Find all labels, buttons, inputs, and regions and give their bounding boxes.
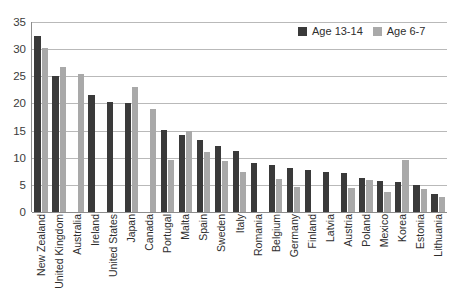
bar	[52, 76, 58, 212]
x-tick-label: Belgium	[270, 214, 281, 252]
y-axis: 05101520253035	[0, 22, 26, 212]
bar	[42, 48, 48, 212]
bar-group	[50, 22, 68, 212]
bar	[161, 130, 167, 212]
x-label-cell: Latvia	[321, 214, 339, 306]
x-tick-label: Finland	[306, 214, 317, 248]
bar	[341, 173, 347, 212]
dark-square-swatch	[298, 27, 307, 36]
y-tick-label-5: 5	[20, 179, 26, 191]
bar	[197, 140, 203, 212]
bar	[413, 185, 419, 212]
bar-group	[231, 22, 249, 212]
bar	[34, 36, 40, 212]
bar	[395, 182, 401, 212]
bar-group	[393, 22, 411, 212]
x-label-cell: Australia	[68, 214, 86, 306]
x-label-cell: Sweden	[212, 214, 230, 306]
x-label-cell: Spain	[194, 214, 212, 306]
light-square-swatch	[373, 27, 382, 36]
bar	[323, 172, 329, 212]
y-tick-label-10: 10	[13, 152, 26, 164]
bar	[294, 187, 300, 213]
bar	[222, 161, 228, 212]
bar-group	[212, 22, 230, 212]
y-tick-label-20: 20	[13, 97, 26, 109]
x-label-cell: Italy	[231, 214, 249, 306]
x-label-cell: Germany	[285, 214, 303, 306]
bar	[359, 178, 365, 212]
x-tick-label: Australia	[72, 214, 83, 255]
bar	[402, 160, 408, 212]
x-label-cell: United States	[104, 214, 122, 306]
legend-label: Age 13-14	[312, 26, 363, 37]
bar-group	[285, 22, 303, 212]
x-tick-label: Romania	[252, 214, 263, 256]
bar	[88, 95, 94, 212]
chart-legend: Age 13-14Age 6-7	[298, 26, 425, 37]
bar	[305, 170, 311, 212]
bar-group	[140, 22, 158, 212]
bar	[348, 188, 354, 212]
x-tick-label: Lithuania	[433, 214, 444, 257]
x-tick-label: Poland	[361, 214, 372, 247]
bar-group	[104, 22, 122, 212]
x-tick-label: Japan	[126, 214, 137, 243]
bar-group	[411, 22, 429, 212]
bar	[107, 102, 113, 212]
x-label-cell: Portugal	[158, 214, 176, 306]
bar	[240, 172, 246, 212]
bar-group	[249, 22, 267, 212]
bar-group	[194, 22, 212, 212]
y-tick-label-30: 30	[13, 43, 26, 55]
y-tick-label-35: 35	[13, 16, 26, 28]
legend-item: Age 13-14	[298, 26, 363, 37]
x-tick-label: Sweden	[216, 214, 227, 252]
bar	[366, 180, 372, 212]
bar-group	[68, 22, 86, 212]
bar-group	[86, 22, 104, 212]
x-tick-label: United Kingdom	[54, 214, 65, 289]
x-tick-label: Latvia	[325, 214, 336, 242]
bar	[168, 160, 174, 212]
bar-group	[357, 22, 375, 212]
x-label-cell: Korea	[393, 214, 411, 306]
x-label-cell: Lithuania	[429, 214, 447, 306]
x-tick-label: Ireland	[90, 214, 101, 246]
x-tick-label: Germany	[288, 214, 299, 257]
x-tick-label: Spain	[198, 214, 209, 241]
x-label-cell: Mexico	[375, 214, 393, 306]
bar-group	[267, 22, 285, 212]
bar-group	[321, 22, 339, 212]
bar-group	[158, 22, 176, 212]
bar-group	[176, 22, 194, 212]
bar	[132, 87, 138, 212]
x-tick-label: Austria	[343, 214, 354, 247]
x-tick-label: Portugal	[162, 214, 173, 253]
x-tick-label: Malta	[180, 214, 191, 240]
bar-group	[32, 22, 50, 212]
bar	[186, 131, 192, 212]
x-label-cell: Ireland	[86, 214, 104, 306]
x-label-cell: United Kingdom	[50, 214, 68, 306]
x-label-cell: Canada	[140, 214, 158, 306]
bar-chart: 05101520253035 New ZealandUnited Kingdom…	[0, 0, 455, 306]
x-tick-label: Mexico	[379, 214, 390, 247]
bar	[431, 194, 437, 212]
x-tick-label: Estonia	[415, 214, 426, 249]
y-tick-label-25: 25	[13, 70, 26, 82]
x-label-cell: Poland	[357, 214, 375, 306]
bar	[215, 146, 221, 212]
x-label-cell: New Zealand	[32, 214, 50, 306]
bar-group	[122, 22, 140, 212]
bar	[384, 192, 390, 212]
x-label-cell: Japan	[122, 214, 140, 306]
x-label-cell: Austria	[339, 214, 357, 306]
x-label-cell: Romania	[249, 214, 267, 306]
gridline-0	[32, 212, 447, 213]
bar	[251, 163, 257, 212]
bar-group	[375, 22, 393, 212]
y-tick-label-15: 15	[13, 125, 26, 137]
bar-group	[429, 22, 447, 212]
bar	[269, 165, 275, 212]
